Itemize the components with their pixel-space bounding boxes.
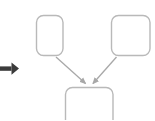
edge-left-to-bottom (56, 57, 86, 84)
node-top-left[interactable] (37, 16, 64, 56)
node-bottom-center[interactable] (66, 88, 114, 121)
edge-right-to-bottom (93, 57, 117, 84)
flowchart-graphic (0, 0, 155, 120)
diagram-canvas (0, 0, 155, 120)
node-top-right[interactable] (112, 16, 151, 56)
right-arrow-icon (0, 63, 19, 75)
